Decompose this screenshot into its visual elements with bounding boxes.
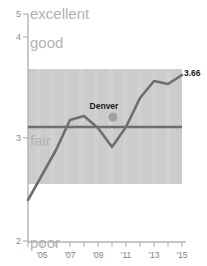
y-category-good: good [30, 34, 63, 51]
end-value-label: 3.66 [184, 68, 201, 78]
marker-dot-denver [108, 112, 117, 121]
y-category-fair: fair [30, 132, 51, 149]
y-tick-label-4: 4 [16, 32, 21, 42]
y-tick-label-2: 2 [16, 236, 21, 246]
chart-container: excellent good fair poor 5 4 3 2 [0, 0, 207, 266]
series-annotation-denver: Denver [90, 101, 120, 111]
x-tick-label-2007: '07 [64, 250, 75, 260]
y-axis-ticks [23, 14, 28, 241]
x-tick-label-2011: '11 [121, 250, 132, 260]
x-tick-label-2005: '05 [36, 250, 47, 260]
x-tick-label-2015: '15 [176, 250, 187, 260]
x-tick-label-2009: '09 [92, 250, 103, 260]
y-tick-label-3: 3 [16, 133, 21, 143]
y-tick-label-5: 5 [16, 9, 21, 19]
y-category-excellent: excellent [30, 5, 90, 22]
line-chart: excellent good fair poor 5 4 3 2 [0, 0, 207, 266]
x-tick-label-2013: '13 [148, 250, 159, 260]
